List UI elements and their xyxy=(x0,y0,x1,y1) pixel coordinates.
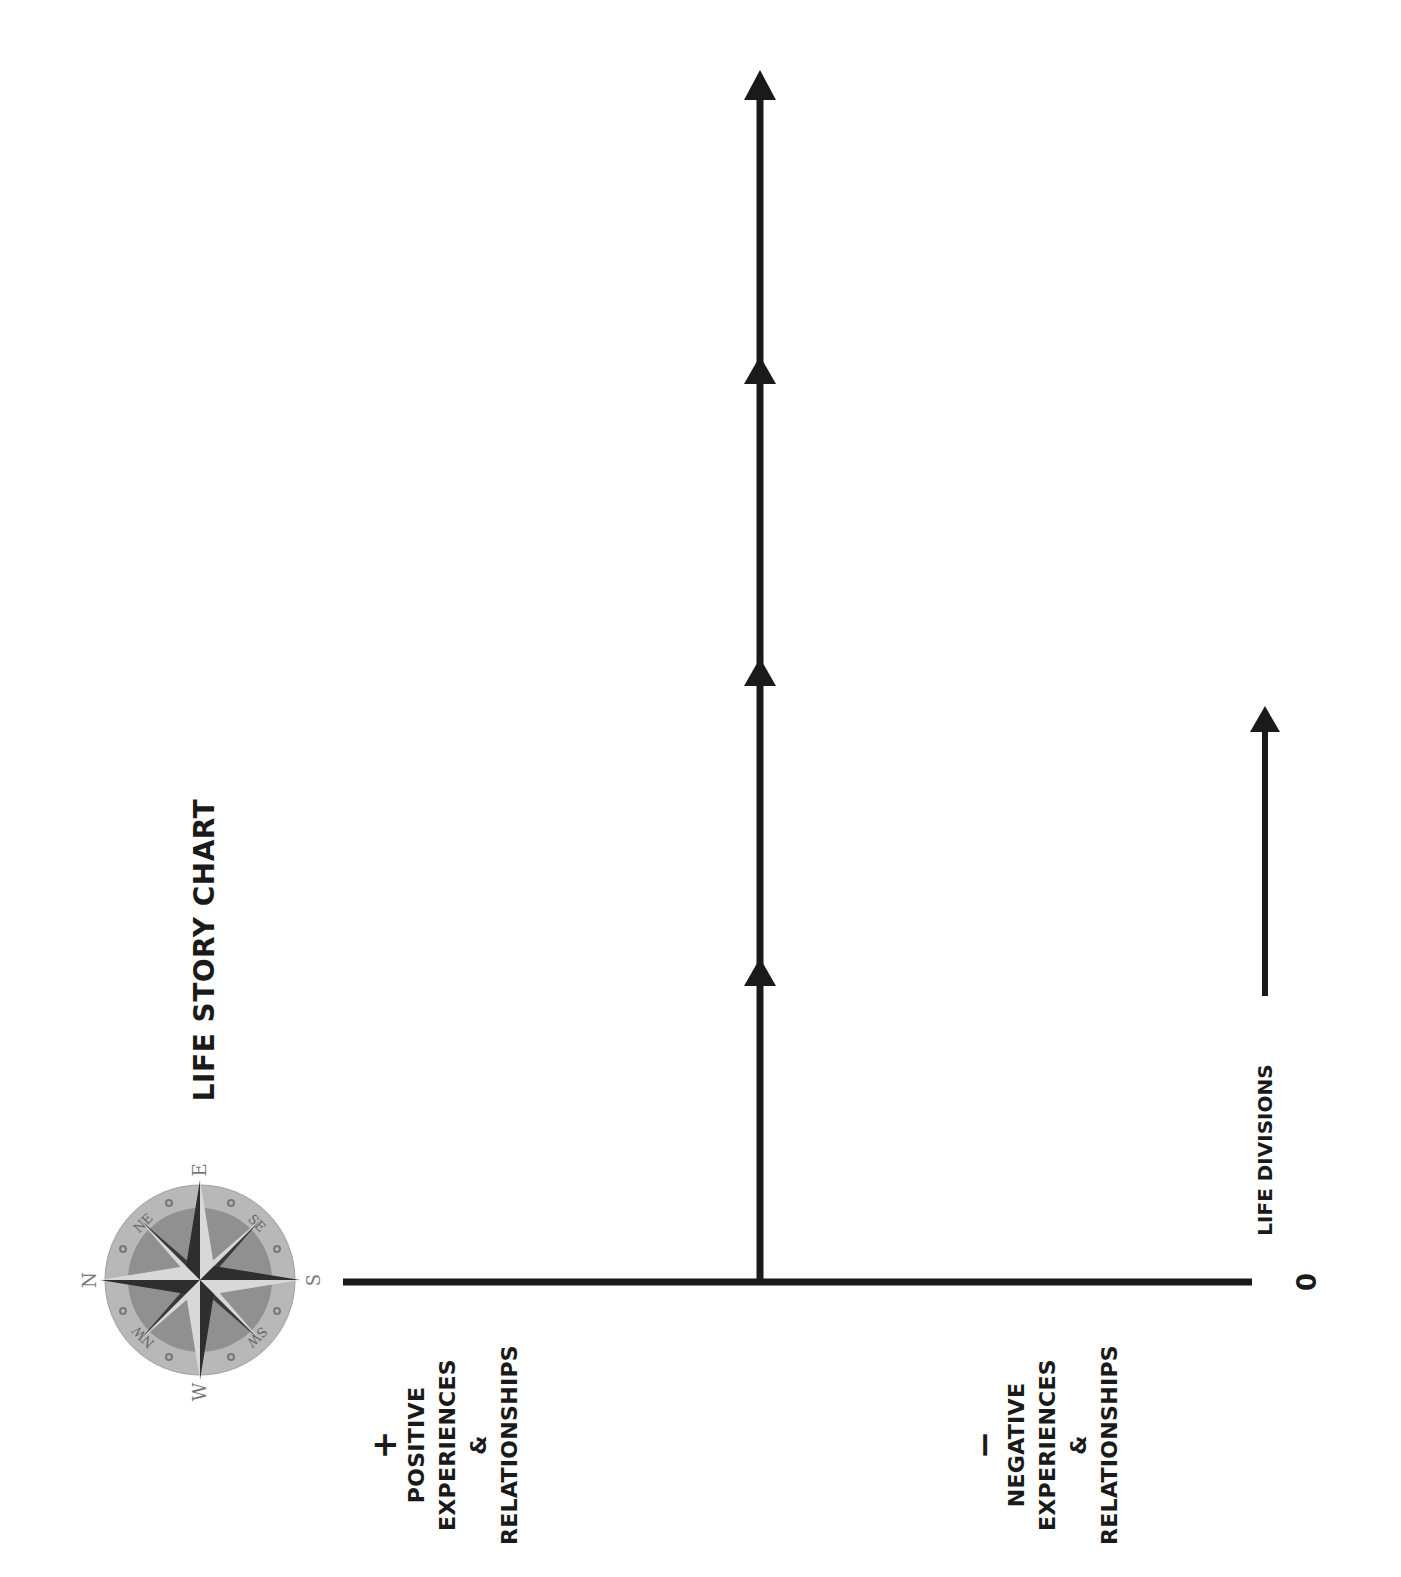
negative-label-line2: EXPERIENCES xyxy=(1032,1330,1063,1560)
compass-rose-icon: N E S W NE SE SW NW xyxy=(0,0,1401,1577)
compass-e: E xyxy=(189,1163,210,1176)
negative-label-line3: & xyxy=(1063,1330,1094,1560)
positive-label-line3: & xyxy=(463,1330,494,1560)
compass-s: S xyxy=(303,1274,324,1286)
positive-label-line1: POSITIVE xyxy=(401,1330,432,1560)
positive-label-block: + POSITIVE EXPERIENCES & RELATIONSHIPS xyxy=(367,1330,527,1560)
negative-label-line1: NEGATIVE xyxy=(1001,1330,1032,1560)
compass-n: N xyxy=(79,1272,100,1288)
compass-w: W xyxy=(189,1382,210,1401)
positive-label-line2: EXPERIENCES xyxy=(432,1330,463,1560)
minus-sign: − xyxy=(967,1330,1001,1560)
chart-title: LIFE STORY CHART xyxy=(185,790,225,1110)
life-divisions-label: LIFE DIVISIONS xyxy=(1250,1060,1280,1240)
origin-zero-label: 0 xyxy=(1290,1265,1324,1299)
negative-label-line4: RELATIONSHIPS xyxy=(1094,1330,1125,1560)
negative-label-block: − NEGATIVE EXPERIENCES & RELATIONSHIPS xyxy=(967,1330,1127,1560)
positive-label-line4: RELATIONSHIPS xyxy=(494,1330,525,1560)
plus-sign: + xyxy=(367,1330,401,1560)
